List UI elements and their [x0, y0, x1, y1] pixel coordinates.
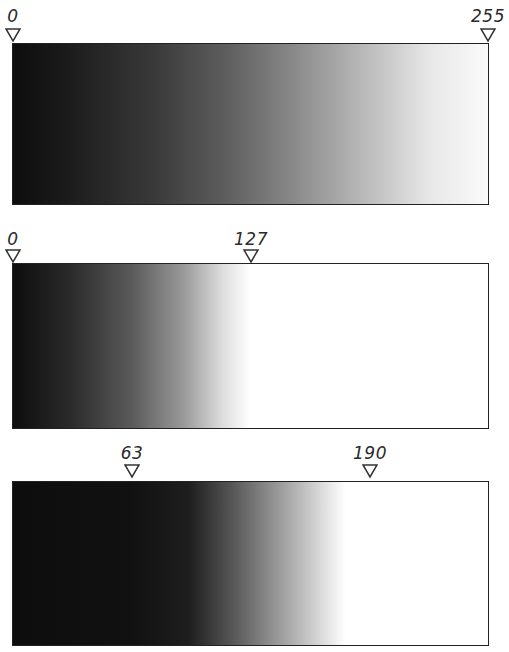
gradient-bar	[12, 481, 489, 646]
gradient-bar	[12, 43, 489, 205]
marker-label-white: 127	[234, 231, 268, 248]
levels-panel-white-point-127: 0 127	[0, 228, 509, 433]
levels-panel-full-range: 0 255	[0, 0, 509, 210]
marker-label-black: 0	[7, 231, 18, 248]
marker-label-white: 190	[353, 445, 387, 462]
gradient-bar	[12, 263, 489, 429]
marker-label-black: 63	[121, 445, 144, 462]
levels-panel-range-63-190: 63 190	[0, 440, 509, 652]
marker-label-white: 255	[471, 8, 505, 25]
marker-label-black: 0	[7, 8, 18, 25]
